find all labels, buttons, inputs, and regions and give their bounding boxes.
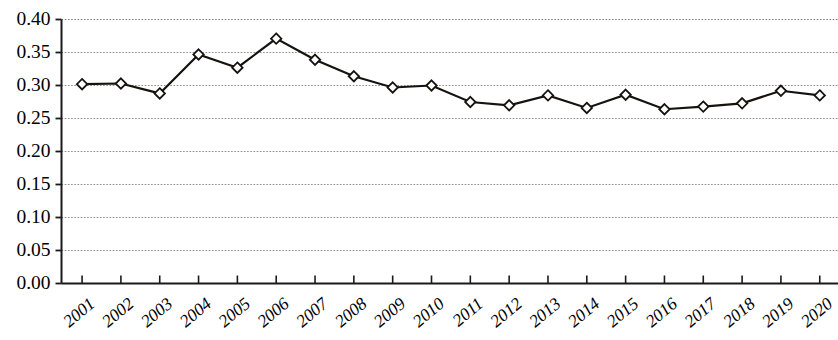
data-point-2020 bbox=[815, 90, 825, 100]
x-axis-labels: 2001200220032004200520062007200820092010… bbox=[59, 292, 837, 331]
y-tick-label: 0.00 bbox=[16, 272, 50, 293]
data-point-2013 bbox=[543, 90, 553, 100]
data-point-2001 bbox=[77, 79, 87, 89]
data-point-2017 bbox=[698, 101, 708, 111]
x-tick-label: 2001 bbox=[59, 293, 99, 331]
y-axis-labels: 0.000.050.100.150.200.250.300.350.40 bbox=[16, 8, 50, 293]
x-tick-label: 2011 bbox=[448, 293, 487, 330]
data-point-2007 bbox=[310, 55, 320, 65]
x-tick-label: 2016 bbox=[641, 293, 681, 331]
data-point-2009 bbox=[387, 82, 397, 92]
data-point-2010 bbox=[426, 80, 436, 90]
data-point-2014 bbox=[582, 103, 592, 113]
y-tick-label: 0.40 bbox=[16, 8, 50, 29]
x-tick-label: 2014 bbox=[564, 293, 604, 331]
x-tick-label: 2005 bbox=[214, 293, 254, 331]
x-tick-label: 2006 bbox=[253, 293, 293, 331]
y-tick-label: 0.30 bbox=[16, 74, 50, 95]
line-chart: 0.000.050.100.150.200.250.300.350.402001… bbox=[0, 0, 838, 340]
y-tick-label: 0.20 bbox=[16, 140, 50, 161]
data-series-group bbox=[77, 33, 825, 114]
x-tick-label: 2003 bbox=[137, 293, 177, 331]
x-tick-label: 2002 bbox=[98, 293, 138, 331]
x-tick-label: 2004 bbox=[175, 293, 215, 331]
x-tick-label: 2013 bbox=[525, 293, 565, 331]
data-point-2008 bbox=[349, 71, 359, 81]
data-point-2018 bbox=[737, 98, 747, 108]
data-point-2016 bbox=[659, 104, 669, 114]
data-point-2019 bbox=[776, 86, 786, 96]
x-tick-label: 2009 bbox=[370, 293, 410, 331]
y-tick-label: 0.05 bbox=[16, 239, 50, 260]
gridlines-group bbox=[62, 20, 838, 251]
y-tick-label: 0.25 bbox=[16, 107, 50, 128]
x-tick-label: 2007 bbox=[292, 292, 333, 331]
y-tick-label: 0.15 bbox=[16, 173, 50, 194]
y-tick-label: 0.35 bbox=[16, 41, 50, 62]
x-tick-label: 2012 bbox=[486, 293, 526, 331]
y-tick-label: 0.10 bbox=[16, 206, 50, 227]
x-tick-label: 2008 bbox=[331, 293, 371, 331]
x-tick-label: 2018 bbox=[719, 293, 759, 331]
data-point-2015 bbox=[620, 90, 630, 100]
x-tick-label: 2015 bbox=[603, 293, 643, 331]
data-point-2012 bbox=[504, 100, 514, 110]
chart-canvas: 0.000.050.100.150.200.250.300.350.402001… bbox=[0, 0, 838, 340]
data-point-2002 bbox=[116, 78, 126, 88]
series-line bbox=[82, 39, 820, 110]
x-tick-label: 2019 bbox=[758, 293, 798, 331]
x-tick-label: 2010 bbox=[408, 293, 448, 331]
x-tick-label: 2020 bbox=[797, 293, 837, 331]
x-tick-label: 2017 bbox=[680, 292, 721, 331]
data-point-2011 bbox=[465, 97, 475, 107]
